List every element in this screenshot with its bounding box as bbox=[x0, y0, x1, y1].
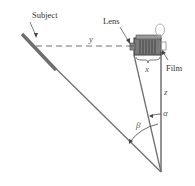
z-label: z bbox=[163, 87, 168, 97]
alpha-arrowhead bbox=[149, 114, 153, 118]
subject-label: Subject bbox=[32, 10, 58, 20]
x-label: x bbox=[144, 64, 149, 74]
film-label: Film bbox=[166, 63, 182, 73]
lens-arrowhead bbox=[126, 38, 130, 44]
x-bracket bbox=[136, 57, 160, 63]
y-label: y bbox=[88, 34, 93, 44]
camera-icon bbox=[130, 24, 166, 55]
camera-geometry-diagram: Subject Lens Film y x z α β bbox=[0, 0, 195, 186]
lens-label: Lens bbox=[103, 16, 120, 26]
alpha-label: α bbox=[163, 108, 168, 118]
subject-to-apex-line bbox=[36, 49, 161, 172]
subject-arrowhead bbox=[34, 33, 38, 38]
beta-label: β bbox=[135, 120, 141, 130]
